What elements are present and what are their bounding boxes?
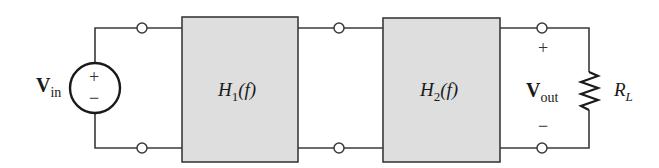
vout-label: Vout (526, 79, 558, 106)
h1-label-main: H (218, 79, 232, 100)
vin-label-sub: in (50, 85, 61, 100)
rl-label-main: R (614, 79, 626, 100)
source-top-wire (95, 28, 137, 63)
load-top-wire (547, 28, 589, 72)
terminal-icon (537, 23, 547, 33)
vin-label: Vin (36, 74, 61, 101)
terminal-icon (137, 143, 147, 153)
rl-label-sub: L (626, 89, 633, 104)
h2-label-arg: (f) (440, 79, 458, 100)
vin-label-main: V (36, 74, 50, 96)
source-plus-sign: + (89, 67, 99, 88)
terminal-icon (537, 143, 547, 153)
vout-label-main: V (526, 79, 540, 101)
terminal-icon (137, 23, 147, 33)
terminal-icon (334, 143, 344, 153)
terminal-icon (334, 23, 344, 33)
load-bottom-wire (547, 110, 589, 148)
vout-label-sub: out (540, 90, 558, 105)
h2-label-main: H (420, 79, 434, 100)
source-bottom-wire (95, 113, 137, 148)
vout-minus-sign: − (538, 116, 548, 137)
h2-label: H2(f) (420, 79, 458, 105)
h1-label-arg: (f) (238, 79, 256, 100)
h1-label: H1(f) (218, 79, 256, 105)
resistor-icon (581, 72, 598, 110)
vout-plus-sign: + (538, 38, 548, 59)
source-minus-sign: − (89, 88, 99, 109)
rl-label: RL (614, 79, 633, 105)
